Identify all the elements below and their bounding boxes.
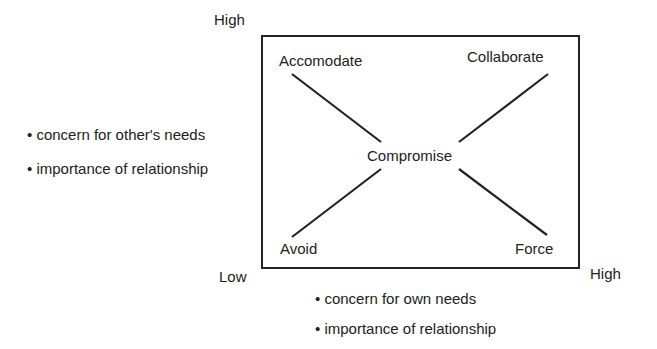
x-axis-criterion-2: • importance of relationship bbox=[315, 320, 496, 338]
line-avoid-to-compromise bbox=[292, 169, 381, 237]
x-axis-criterion-1: • concern for own needs bbox=[315, 290, 476, 308]
quadrant-avoid: Avoid bbox=[280, 240, 317, 258]
y-axis-criterion-1: • concern for other's needs bbox=[27, 126, 205, 144]
y-axis-high-label: High bbox=[214, 11, 245, 29]
center-compromise: Compromise bbox=[367, 147, 452, 165]
y-axis-criterion-2: • importance of relationship bbox=[27, 160, 208, 178]
line-accomodate-to-compromise bbox=[292, 74, 381, 142]
x-axis-low-label: Low bbox=[219, 268, 247, 286]
line-force-to-compromise bbox=[459, 169, 547, 235]
line-collaborate-to-compromise bbox=[459, 74, 548, 142]
x-axis-high-label: High bbox=[590, 265, 621, 283]
quadrant-accomodate: Accomodate bbox=[279, 52, 362, 70]
quadrant-force: Force bbox=[515, 240, 553, 258]
quadrant-collaborate: Collaborate bbox=[467, 48, 544, 66]
